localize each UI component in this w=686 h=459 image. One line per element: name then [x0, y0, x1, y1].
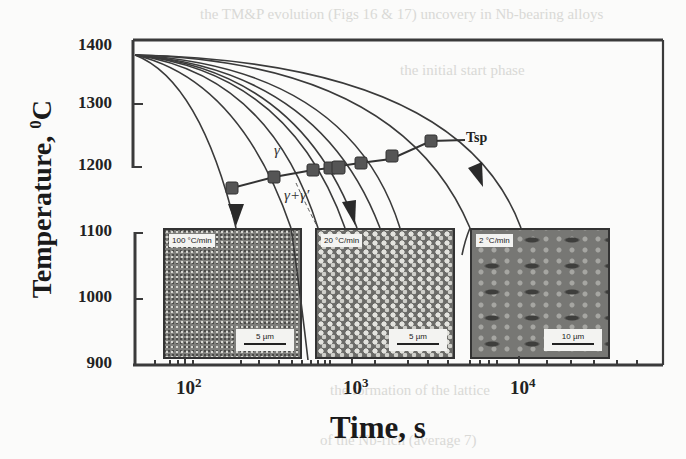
- arrowheads: [228, 162, 483, 226]
- cooling-curves: [135, 55, 521, 228]
- y-tick-label: 900: [52, 353, 112, 373]
- gamma-label: γ: [274, 142, 280, 159]
- scale-bar-label: 10 µm: [544, 332, 602, 341]
- scale-bar: 5 µm: [389, 329, 447, 351]
- scale-bar: 10 µm: [544, 329, 602, 351]
- y-tick-label: 1300: [52, 93, 112, 113]
- micrograph-inset-100cmin: 100 °C/min 5 µm: [163, 228, 302, 359]
- x-tick-label: 103: [343, 375, 369, 399]
- micrograph-inset-2cmin: 2 °C/min 10 µm: [470, 228, 610, 359]
- x-tick-label: 102: [176, 375, 202, 399]
- scale-bar: 5 µm: [236, 329, 294, 351]
- tsp-markers: [226, 135, 437, 194]
- scale-bar-label: 5 µm: [389, 332, 447, 341]
- background-bleed-text: the initial start phase: [400, 62, 525, 79]
- scale-bar-label: 5 µm: [236, 332, 294, 341]
- y-tick-label: 1100: [52, 221, 112, 241]
- y-ticks: [133, 104, 143, 299]
- tsp-label: Tsp: [466, 130, 487, 146]
- y-tick-label: 1000: [52, 287, 112, 307]
- background-bleed-text: the TM&P evolution (Figs 16 & 17) uncove…: [200, 6, 603, 23]
- micrograph-inset-20cmin: 20 °C/min 5 µm: [315, 228, 455, 359]
- inset-rate-label: 2 °C/min: [476, 234, 513, 247]
- inset-rate-label: 20 °C/min: [321, 234, 362, 247]
- x-axis-title: Time, s: [330, 410, 426, 446]
- y-tick-label: 1200: [52, 155, 112, 175]
- gamma-prime-label: γ+γ′: [284, 187, 309, 204]
- tsp-line: [232, 140, 465, 188]
- y-tick-label: 1400: [52, 35, 112, 55]
- y-axis-title: Temperature, 0C: [26, 79, 58, 319]
- x-tick-label: 104: [510, 375, 536, 399]
- inset-rate-label: 100 °C/min: [169, 234, 215, 247]
